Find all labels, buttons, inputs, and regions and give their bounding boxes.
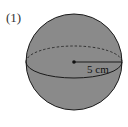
center-point <box>72 60 76 64</box>
sphere-diagram: 5 cm <box>0 0 128 127</box>
radius-label: 5 cm <box>87 63 109 75</box>
